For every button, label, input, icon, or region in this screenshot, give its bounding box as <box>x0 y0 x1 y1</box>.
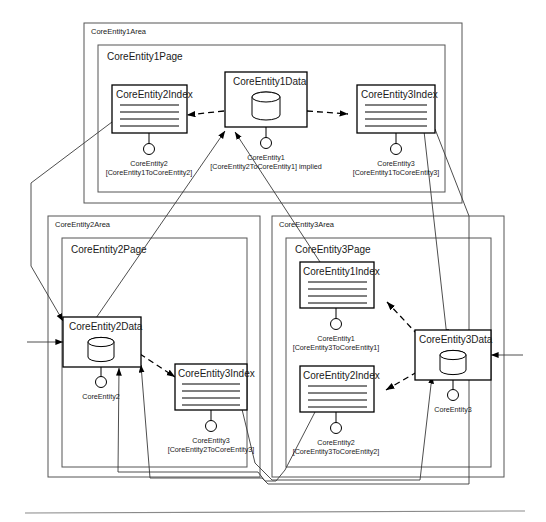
node-coreentity2data[interactable]: CoreEntity2Data CoreEntity2 <box>63 317 143 401</box>
port-name: CoreEntity1 <box>247 153 285 162</box>
port-name: CoreEntity2 <box>130 159 168 168</box>
connector-entity3data-to-entity2index <box>386 372 417 390</box>
node-title: CoreEntity3Index <box>178 368 255 379</box>
node-coreentity2index-top[interactable]: CoreEntity2Index CoreEntity2 [CoreEntity… <box>106 85 193 177</box>
connector-entity1index-to-entity1data <box>235 132 320 262</box>
port-circle <box>331 319 342 330</box>
node-coreentity1data[interactable]: CoreEntity1Data CoreEntity1 [CoreEntity2… <box>210 72 321 171</box>
bottom-separator <box>25 511 525 513</box>
node-title: CoreEntity3Index <box>361 89 438 100</box>
node-title: CoreEntity1Data <box>233 76 307 87</box>
port-name: CoreEntity3 <box>434 405 472 414</box>
node-coreentity3index-area2[interactable]: CoreEntity3Index CoreEntity3 [CoreEntity… <box>168 364 255 454</box>
area-label-coreentity2area: CoreEntity2Area <box>55 220 111 229</box>
port-assoc: [CoreEntity3ToCoreEntity2] <box>293 447 380 456</box>
port-assoc: [CoreEntity2ToCoreEntity1] implied <box>210 162 321 171</box>
database-cylinder-icon <box>440 350 466 374</box>
port-assoc: [CoreEntity1ToCoreEntity3] <box>353 168 440 177</box>
area-label-coreentity3area: CoreEntity3Area <box>279 220 335 229</box>
port-assoc: [CoreEntity3ToCoreEntity1] <box>293 343 380 352</box>
port-circle <box>144 144 155 155</box>
database-cylinder-icon <box>88 337 114 361</box>
diagram-canvas: CoreEntity1Area CoreEntity1Page CoreEnti… <box>0 0 546 522</box>
database-cylinder-icon <box>252 92 280 120</box>
port-assoc: [CoreEntity2ToCoreEntity3] <box>168 445 255 454</box>
connector-entity1data-to-entity2index <box>187 111 224 115</box>
connector-entity1data-to-entity3index <box>307 111 348 114</box>
page-label-coreentity1page: CoreEntity1Page <box>107 51 183 62</box>
node-title: CoreEntity3Data <box>419 334 493 345</box>
port-circle <box>391 144 402 155</box>
node-title: CoreEntity1Index <box>303 266 380 277</box>
port-circle <box>206 421 217 432</box>
port-circle <box>331 423 342 434</box>
node-title: CoreEntity2Index <box>116 89 193 100</box>
port-name: CoreEntity2 <box>82 392 120 401</box>
page-label-coreentity3page: CoreEntity3Page <box>295 244 371 255</box>
port-name: CoreEntity3 <box>377 159 415 168</box>
node-title: CoreEntity2Index <box>303 370 380 381</box>
port-assoc: [CoreEntity1ToCoreEntity2] <box>106 168 193 177</box>
connector-entity3data-to-entity1index <box>387 302 418 335</box>
entity-relationship-diagram: CoreEntity1Area CoreEntity1Page CoreEnti… <box>0 0 546 522</box>
node-coreentity1index-area3[interactable]: CoreEntity1Index CoreEntity1 [CoreEntity… <box>293 262 380 352</box>
port-name: CoreEntity2 <box>317 438 355 447</box>
port-circle <box>448 390 459 401</box>
node-title: CoreEntity2Data <box>69 321 143 332</box>
page-label-coreentity2page: CoreEntity2Page <box>71 244 147 255</box>
port-circle <box>96 377 107 388</box>
area-label-coreentity1area: CoreEntity1Area <box>91 27 147 36</box>
port-circle <box>261 138 272 149</box>
node-coreentity2index-area3[interactable]: CoreEntity2Index CoreEntity2 [CoreEntity… <box>293 366 380 456</box>
port-name: CoreEntity3 <box>192 436 230 445</box>
connector-entity3index-to-entity3data <box>424 131 447 337</box>
connector-entity2data-to-entity3index <box>140 354 175 377</box>
node-coreentity3data[interactable]: CoreEntity3Data CoreEntity3 <box>415 330 493 414</box>
node-coreentity3index-top[interactable]: CoreEntity3Index CoreEntity3 [CoreEntity… <box>353 85 440 177</box>
port-name: CoreEntity1 <box>317 334 355 343</box>
